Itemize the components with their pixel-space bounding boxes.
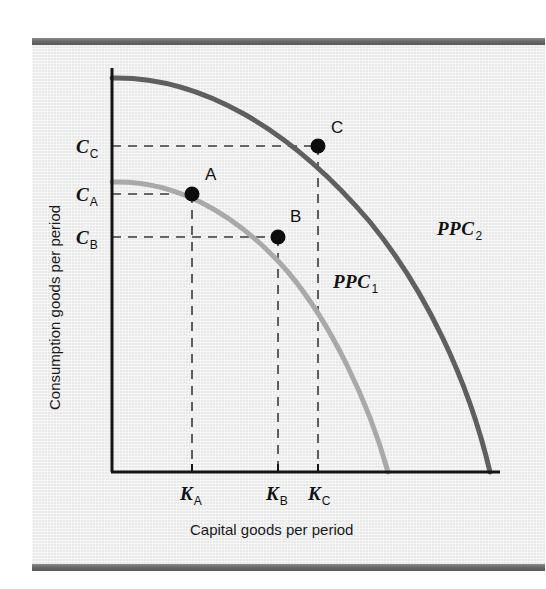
point-label-c: C [331,118,343,137]
data-point-c[interactable] [311,139,326,154]
point-label-b: B [290,207,301,226]
y-axis-title: Consumption goods per period [46,205,63,410]
x-tick-label-ka: KA [179,483,202,508]
x-tick-label-kc: KC [307,483,331,508]
x-axis-title: Capital goods per period [190,521,353,538]
x-tick-labels: KA KB KC [179,483,331,508]
ppc1-curve [112,182,388,472]
ppc2-label: PPC2 [436,218,482,243]
guide-lines [112,146,318,472]
y-tick-labels: CC CA CB [76,136,99,252]
ppc2-curve [112,78,490,472]
data-point-a[interactable] [185,187,200,202]
x-tick-label-kb: KB [265,483,288,508]
ppc1-label: PPC1 [332,271,378,296]
y-tick-label-cb: CB [76,227,98,252]
ppc-chart: A B C CC CA CB KA KB KC [0,0,546,589]
data-point-b[interactable] [271,230,286,245]
y-tick-label-ca: CA [76,184,98,209]
y-tick-label-cc: CC [76,136,99,161]
figure-container: A B C CC CA CB KA KB KC [0,0,546,589]
point-label-a: A [205,165,217,184]
